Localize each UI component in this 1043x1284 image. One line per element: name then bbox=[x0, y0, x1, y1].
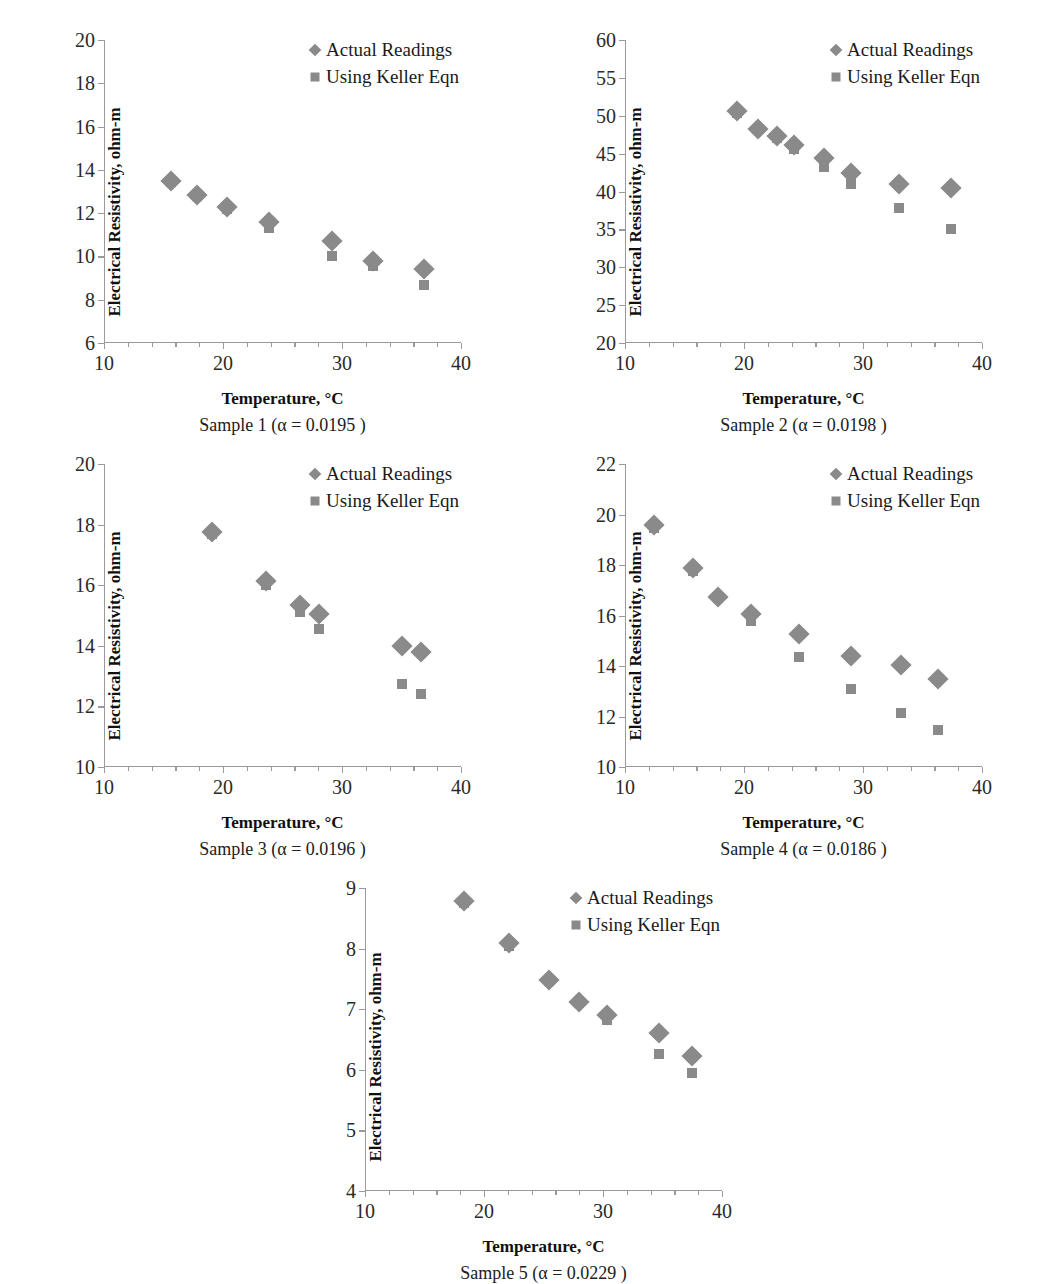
y-axis-tick bbox=[619, 305, 625, 306]
x-axis-tick bbox=[863, 767, 864, 773]
x-axis-tick-label: 20 bbox=[474, 1201, 494, 1221]
y-axis-tick-label: 30 bbox=[596, 257, 616, 277]
x-axis-tick-minor bbox=[649, 343, 650, 347]
y-axis-tick-label: 22 bbox=[596, 454, 616, 474]
plot-area: 10121416182010203040 Actual ReadingsUsin… bbox=[104, 464, 461, 767]
y-axis-tick bbox=[98, 127, 104, 128]
diamond-marker-icon bbox=[829, 43, 842, 56]
legend-item-label: Actual Readings bbox=[326, 40, 452, 59]
data-point-keller-eqn bbox=[894, 203, 904, 213]
y-axis-tick bbox=[98, 706, 104, 707]
x-axis-tick-label: 40 bbox=[712, 1201, 732, 1221]
x-axis-tick bbox=[223, 767, 224, 773]
x-axis-tick-label: 40 bbox=[972, 777, 992, 797]
x-axis-tick-minor bbox=[815, 767, 816, 771]
x-axis-tick bbox=[104, 767, 105, 773]
x-axis-tick-minor bbox=[271, 343, 272, 347]
plot-area: 20253035404550556010203040 Actual Readin… bbox=[625, 40, 982, 343]
y-axis-tick-label: 35 bbox=[596, 219, 616, 239]
x-axis-tick-minor bbox=[815, 343, 816, 347]
y-axis-tick bbox=[619, 154, 625, 155]
x-axis-tick-label: 30 bbox=[332, 353, 352, 373]
legend-item-label: Using Keller Eqn bbox=[326, 491, 459, 510]
y-axis-tick bbox=[619, 717, 625, 718]
legend: Actual ReadingsUsing Keller Eqn bbox=[308, 464, 459, 518]
legend: Actual ReadingsUsing Keller Eqn bbox=[829, 464, 980, 518]
x-axis-tick bbox=[603, 1191, 604, 1197]
x-axis-tick-minor bbox=[651, 1191, 652, 1195]
x-axis-tick-minor bbox=[911, 343, 912, 347]
x-axis-tick-minor bbox=[152, 767, 153, 771]
x-axis-tick-minor bbox=[247, 767, 248, 771]
legend: Actual ReadingsUsing Keller Eqn bbox=[829, 40, 980, 94]
data-point-keller-eqn bbox=[794, 652, 804, 662]
x-axis-tick-minor bbox=[318, 767, 319, 771]
x-axis-line bbox=[365, 1190, 722, 1191]
x-axis-line bbox=[625, 342, 982, 343]
y-axis-tick bbox=[619, 116, 625, 117]
square-marker-icon bbox=[308, 494, 321, 507]
x-axis-tick-minor bbox=[390, 343, 391, 347]
data-point-keller-eqn bbox=[933, 725, 943, 735]
y-axis-tick-label: 6 bbox=[346, 1060, 356, 1080]
legend-item: Using Keller Eqn bbox=[569, 915, 720, 934]
data-point-keller-eqn bbox=[397, 679, 407, 689]
x-axis-tick-minor bbox=[128, 767, 129, 771]
legend-item-label: Using Keller Eqn bbox=[847, 491, 980, 510]
legend: Actual ReadingsUsing Keller Eqn bbox=[308, 40, 459, 94]
x-axis-tick-minor bbox=[294, 767, 295, 771]
y-axis-tick bbox=[98, 170, 104, 171]
legend-item: Using Keller Eqn bbox=[308, 491, 459, 510]
x-axis-tick-minor bbox=[649, 767, 650, 771]
y-axis-tick-label: 16 bbox=[596, 606, 616, 626]
x-axis-tick-label: 40 bbox=[972, 353, 992, 373]
x-axis-tick bbox=[461, 343, 462, 349]
y-axis-tick-label: 40 bbox=[596, 182, 616, 202]
x-axis-tick bbox=[982, 767, 983, 773]
x-axis-tick bbox=[744, 343, 745, 349]
square-marker-icon bbox=[829, 70, 842, 83]
x-axis-tick-minor bbox=[673, 343, 674, 347]
x-axis-tick-label: 40 bbox=[451, 777, 471, 797]
x-axis-tick-label: 30 bbox=[853, 353, 873, 373]
chart-sample-5: Electrical Resistivity, ohm-m 4567891020… bbox=[261, 848, 782, 1266]
diamond-marker-icon bbox=[829, 467, 842, 480]
y-axis-tick-label: 20 bbox=[75, 30, 95, 50]
legend-item-label: Using Keller Eqn bbox=[847, 67, 980, 86]
y-axis-tick bbox=[619, 192, 625, 193]
x-axis-tick bbox=[625, 767, 626, 773]
x-axis-tick-minor bbox=[698, 1191, 699, 1195]
y-axis-tick-label: 14 bbox=[596, 656, 616, 676]
y-axis-tick bbox=[98, 646, 104, 647]
y-axis-tick-label: 45 bbox=[596, 144, 616, 164]
y-axis-tick-label: 60 bbox=[596, 30, 616, 50]
x-axis-tick-minor bbox=[128, 343, 129, 347]
data-point-keller-eqn bbox=[416, 689, 426, 699]
y-axis-tick bbox=[619, 464, 625, 465]
x-axis-tick bbox=[342, 343, 343, 349]
y-axis-tick bbox=[619, 616, 625, 617]
x-axis-tick-minor bbox=[366, 343, 367, 347]
y-axis-tick-label: 7 bbox=[346, 999, 356, 1019]
diamond-marker-icon bbox=[569, 891, 582, 904]
x-axis-tick-label: 10 bbox=[615, 353, 635, 373]
chart-panel-sample-2: Electrical Resistivity, ohm-m 2025303540… bbox=[521, 0, 1042, 424]
x-axis-tick-minor bbox=[839, 767, 840, 771]
y-axis-tick bbox=[619, 229, 625, 230]
legend-item: Using Keller Eqn bbox=[829, 67, 980, 86]
y-axis-line bbox=[625, 464, 626, 767]
data-point-keller-eqn bbox=[896, 708, 906, 718]
y-axis-tick-label: 25 bbox=[596, 295, 616, 315]
legend-item: Actual Readings bbox=[308, 40, 459, 59]
y-axis-tick-label: 8 bbox=[85, 290, 95, 310]
chart-panel-sample-4: Electrical Resistivity, ohm-m 1012141618… bbox=[521, 424, 1042, 848]
x-axis-tick-minor bbox=[436, 1191, 437, 1195]
chart-panel-sample-3: Electrical Resistivity, ohm-m 1012141618… bbox=[0, 424, 521, 848]
x-axis-tick bbox=[342, 767, 343, 773]
x-axis-tick-minor bbox=[911, 767, 912, 771]
x-axis-tick-minor bbox=[958, 767, 959, 771]
y-axis-tick bbox=[359, 1130, 365, 1131]
data-point-keller-eqn bbox=[314, 624, 324, 634]
y-axis-line bbox=[625, 40, 626, 343]
